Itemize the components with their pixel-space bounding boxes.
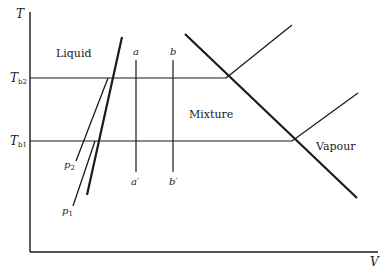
- path-a-label: a: [133, 47, 139, 57]
- p2-subscript: 2: [70, 164, 74, 172]
- liquid-boundary-line: [87, 37, 122, 195]
- path-a-prime-label: a′: [131, 177, 139, 187]
- tb2-subscript: b2: [18, 78, 27, 86]
- liquid-region-label: Liquid: [56, 48, 92, 59]
- x-axis-label: V: [370, 256, 379, 268]
- p1-label: p1: [62, 206, 73, 218]
- path-b-label: b: [170, 47, 176, 57]
- p2-label: p2: [64, 160, 75, 172]
- tb1-label: Tb1: [10, 135, 27, 149]
- tb2-label: Tb2: [10, 72, 27, 86]
- phase-diagram: [0, 0, 392, 273]
- vapour-region-label: Vapour: [316, 141, 356, 152]
- tb1-subscript: b1: [18, 141, 27, 149]
- path-b-prime-label: b′: [169, 177, 178, 187]
- tb1-symbol: T: [10, 134, 18, 148]
- y-axis-label: T: [16, 8, 24, 20]
- tb2-symbol: T: [10, 71, 18, 85]
- p1-subscript: 1: [68, 210, 72, 218]
- p2-vapour-branch: [226, 25, 292, 78]
- mixture-region-label: Mixture: [189, 109, 233, 120]
- p1-vapour-branch: [292, 93, 358, 141]
